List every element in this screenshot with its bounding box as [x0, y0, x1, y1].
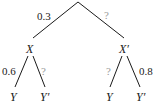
branch-prob-xprime-yprime: 0.8 [139, 65, 153, 77]
leaf-yprime-2: Y′ [136, 90, 146, 104]
probability-tree-diagram: 0.3 ? X X′ 0.6 ? ? 0.8 Y Y′ Y Y′ [0, 0, 166, 111]
leaf-yprime-1: Y′ [40, 90, 50, 104]
branch-prob-root-x: 0.3 [37, 10, 51, 22]
node-x: X [25, 42, 34, 56]
leaf-y-1: Y [10, 90, 18, 104]
node-xprime: X′ [118, 42, 129, 56]
branch-prob-x-yprime: ? [41, 65, 46, 77]
edge-x-to-y [15, 56, 28, 87]
branch-prob-x-y: 0.6 [2, 65, 16, 77]
branch-prob-xprime-y: ? [106, 65, 111, 77]
leaf-y-2: Y [106, 90, 114, 104]
branch-prob-root-xprime: ? [104, 9, 109, 21]
edge-xprime-to-y [110, 56, 122, 87]
edge-root-to-xprime [78, 2, 124, 38]
